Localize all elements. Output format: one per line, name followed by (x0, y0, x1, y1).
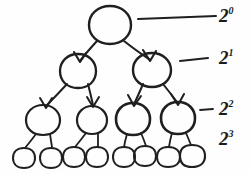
level-label-2-pow-2: 22 (219, 99, 234, 118)
power-label-layer: 20 21 22 23 (0, 0, 251, 174)
level-label-exponent: 2 (229, 98, 234, 109)
level-label-base: 2 (219, 128, 229, 149)
level-label-2-pow-1: 21 (219, 48, 234, 67)
level-label-exponent: 1 (229, 47, 234, 58)
diagram-canvas: 20 21 22 23 (0, 0, 251, 174)
level-label-base: 2 (219, 5, 229, 26)
level-label-base: 2 (219, 98, 229, 119)
level-label-2-pow-3: 23 (219, 129, 234, 148)
level-label-2-pow-0: 20 (219, 6, 234, 25)
level-label-exponent: 3 (229, 128, 234, 139)
level-label-base: 2 (219, 47, 229, 68)
level-label-exponent: 0 (229, 5, 234, 16)
